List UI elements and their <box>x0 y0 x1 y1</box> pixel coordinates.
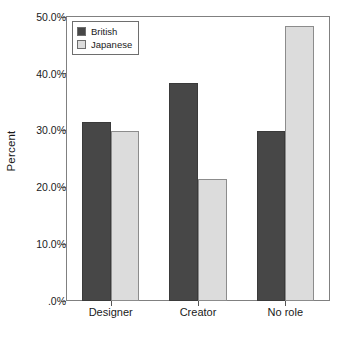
bar-no-role-british <box>257 131 286 301</box>
y-axis-tick-mark <box>61 73 66 74</box>
x-axis-tick-mark <box>111 301 112 306</box>
bar-creator-japanese <box>198 179 227 301</box>
bar-chart: Percent .0%10.0%20.0%30.0%40.0%50.0% Des… <box>0 0 347 337</box>
x-axis-tick-label: No role <box>268 306 303 318</box>
y-axis-tick-mark <box>61 17 66 18</box>
x-axis-labels: DesignerCreatorNo role <box>67 306 329 330</box>
y-axis-tick-mark <box>61 301 66 302</box>
legend-swatch-japanese <box>77 40 86 49</box>
y-axis-tick-mark <box>61 244 66 245</box>
x-axis-tick-mark <box>285 301 286 306</box>
bar-designer-british <box>82 122 111 301</box>
chart-legend: British Japanese <box>72 21 139 55</box>
legend-item: Japanese <box>77 38 132 51</box>
y-axis-ticks: .0%10.0%20.0%30.0%40.0%50.0% <box>20 0 66 337</box>
bar-no-role-japanese <box>285 26 314 301</box>
legend-swatch-british <box>77 27 86 36</box>
bars-container <box>67 17 329 301</box>
bar-designer-japanese <box>111 131 140 301</box>
x-axis-tick-label: Creator <box>180 306 217 318</box>
y-axis-title: Percent <box>0 0 22 301</box>
legend-label-british: British <box>91 27 117 37</box>
y-axis-title-label: Percent <box>5 130 17 171</box>
x-axis-tick-mark <box>198 301 199 306</box>
legend-label-japanese: Japanese <box>91 40 132 50</box>
legend-item: British <box>77 25 132 38</box>
y-axis-tick-mark <box>61 187 66 188</box>
x-axis-tick-label: Designer <box>89 306 133 318</box>
bar-creator-british <box>169 83 198 301</box>
y-axis-tick-mark <box>61 130 66 131</box>
